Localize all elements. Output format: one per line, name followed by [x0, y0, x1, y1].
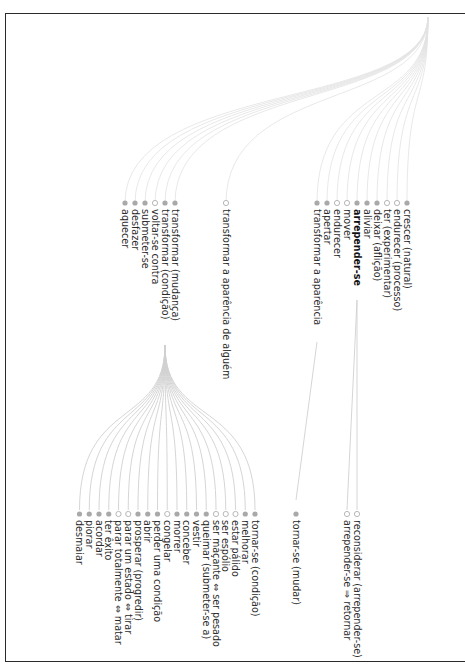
filled-node-icon: [293, 511, 298, 516]
tree-edge: [317, 17, 428, 203]
filled-node-icon: [252, 511, 257, 516]
tree-edge: [165, 345, 226, 510]
open-node-icon: [165, 511, 170, 516]
filled-node-icon: [174, 511, 179, 516]
filled-node-icon: [324, 200, 329, 205]
filled-node-icon: [354, 200, 359, 205]
filled-node-icon: [96, 511, 101, 516]
tree-edge: [135, 17, 428, 203]
filled-node-icon: [243, 511, 248, 516]
tree-edge: [327, 17, 428, 203]
tree-edge: [296, 342, 317, 500]
tree-edge: [175, 17, 428, 203]
open-node-icon: [116, 511, 121, 516]
node-label: aquecer: [120, 209, 131, 248]
filled-node-icon: [145, 511, 150, 516]
filled-node-icon: [87, 511, 92, 516]
filled-node-icon: [77, 511, 82, 516]
node-label: transformar a aparência: [312, 209, 323, 325]
node-label: desmaiar: [74, 520, 85, 565]
tree-edge: [128, 345, 165, 510]
filled-node-icon: [194, 511, 199, 516]
tree-node: arrepender-se ⇒ retornar: [342, 511, 353, 640]
tree-edge: [138, 345, 165, 510]
filled-node-icon: [132, 200, 137, 205]
tree-edge: [347, 300, 357, 510]
open-node-icon: [223, 511, 228, 516]
tree-edge: [145, 17, 428, 203]
node-label: tornar-se (mudar): [291, 520, 302, 605]
open-node-icon: [344, 511, 349, 516]
open-node-icon: [213, 511, 218, 516]
tree-edge: [165, 17, 428, 203]
filled-node-icon: [404, 200, 409, 205]
open-node-icon: [354, 511, 359, 516]
filled-node-icon: [364, 200, 369, 205]
tree-edge: [155, 17, 428, 203]
open-node-icon: [126, 511, 131, 516]
open-node-icon: [152, 200, 157, 205]
tree-node: desmaiar: [74, 511, 85, 564]
filled-node-icon: [122, 200, 127, 205]
filled-node-icon: [155, 511, 160, 516]
node-label: transformar a aparência de alguém: [221, 209, 232, 379]
filled-node-icon: [162, 200, 167, 205]
filled-node-icon: [172, 200, 177, 205]
tree-node: tornar-se (mudar): [291, 511, 302, 605]
tree-edge: [165, 345, 255, 510]
open-node-icon: [344, 200, 349, 205]
open-node-icon: [384, 200, 389, 205]
tree-edge: [109, 345, 165, 510]
filled-node-icon: [204, 511, 209, 516]
filled-node-icon: [135, 511, 140, 516]
filled-node-icon: [374, 200, 379, 205]
tree-node: transformar a aparência: [312, 200, 323, 325]
open-node-icon: [394, 200, 399, 205]
filled-node-icon: [314, 200, 319, 205]
filled-node-icon: [184, 511, 189, 516]
open-node-icon: [334, 200, 339, 205]
filled-node-icon: [106, 511, 111, 516]
open-node-icon: [233, 511, 238, 516]
filled-node-icon: [142, 200, 147, 205]
tree-node: aquecer: [120, 200, 131, 248]
node-label: arrepender-se ⇒ retornar: [342, 520, 353, 640]
open-node-icon: [223, 200, 228, 205]
tree-node: transformar a aparência de alguém: [221, 200, 232, 379]
